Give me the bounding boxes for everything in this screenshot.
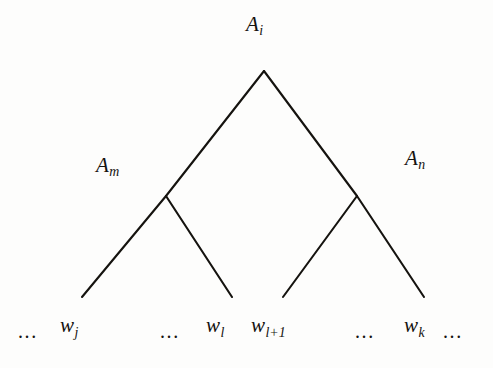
terminal-w-k-symbol: w (404, 313, 418, 337)
ellipsis-leading: ... (18, 321, 38, 341)
ellipsis-trailing: ... (443, 321, 463, 341)
edge-root-to-right-node (264, 71, 357, 196)
root-node-subscript: i (259, 23, 263, 38)
terminal-w-l-subscript: l (220, 325, 224, 340)
edge-right-node-to-leaf-3 (283, 196, 357, 297)
terminal-w-j: wj (60, 315, 78, 340)
left-node-subscript: m (109, 164, 120, 179)
terminal-w-l: wl (206, 315, 224, 340)
edge-left-node-to-leaf-1 (82, 196, 166, 297)
edge-root-to-left-node (166, 71, 264, 196)
terminal-w-j-subscript: j (74, 325, 78, 340)
edge-right-node-to-leaf-4 (357, 196, 424, 297)
ellipsis-mid-right: ... (355, 321, 375, 341)
left-node-symbol: A (96, 153, 109, 177)
terminal-row: ... wj ... wl wl+1 ... wk ... (0, 313, 493, 359)
terminal-w-k-subscript: k (418, 325, 425, 340)
terminal-w-j-symbol: w (60, 313, 74, 337)
terminal-w-l-plus-1: wl+1 (251, 315, 286, 340)
terminal-w-l-plus-1-subscript: l+1 (265, 325, 286, 340)
terminal-w-l-symbol: w (206, 313, 220, 337)
edge-left-node-to-leaf-2 (166, 196, 232, 297)
terminal-w-l-plus-1-symbol: w (251, 313, 265, 337)
right-node-subscript: n (418, 157, 425, 172)
root-node-label: Ai (246, 14, 263, 38)
right-node-symbol: A (405, 146, 418, 170)
right-node-label: An (405, 148, 425, 172)
left-node-label: Am (96, 155, 119, 179)
syntax-tree-figure: Ai Am An ... wj ... wl wl+1 ... wk ... (0, 0, 493, 368)
root-node-symbol: A (246, 12, 259, 36)
terminal-w-k: wk (404, 315, 425, 340)
ellipsis-mid-left: ... (160, 321, 180, 341)
